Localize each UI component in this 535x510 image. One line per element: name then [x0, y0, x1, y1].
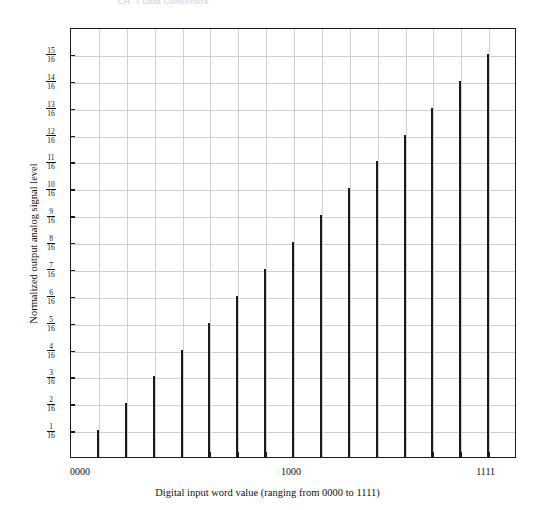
x-tick-mark — [154, 452, 155, 458]
chart-plot-area — [70, 28, 516, 458]
y-tick-mark — [70, 377, 75, 378]
y-tick-mark — [70, 297, 75, 298]
y-tick-mark — [70, 270, 75, 271]
x-tick-mark — [377, 452, 378, 458]
bar — [320, 215, 322, 457]
x-tick-mark — [98, 452, 99, 458]
y-tick-mark — [70, 109, 75, 110]
x-tick-mark — [488, 452, 489, 458]
bar — [264, 269, 266, 457]
x-tick-mark — [237, 452, 238, 458]
bar — [125, 403, 127, 457]
bar — [487, 54, 489, 457]
x-tick-mark — [126, 452, 127, 458]
y-tick-label: 616 — [38, 289, 64, 306]
y-tick-mark — [70, 136, 75, 137]
x-tick-label: 1000 — [281, 466, 301, 477]
bar — [376, 161, 378, 457]
y-tick-label: 316 — [38, 369, 64, 386]
y-tick-mark — [70, 404, 75, 405]
y-tick-label: 516 — [38, 316, 64, 333]
y-tick-mark — [70, 189, 75, 190]
y-tick-mark — [70, 216, 75, 217]
bar — [236, 296, 238, 457]
x-tick-mark — [265, 452, 266, 458]
bar — [153, 376, 155, 457]
chart-bars — [71, 29, 515, 457]
x-axis-title: Digital input word value (ranging from 0… — [0, 487, 535, 498]
x-tick-label: 0000 — [70, 466, 90, 477]
y-tick-mark — [70, 431, 75, 432]
x-tick-mark — [321, 452, 322, 458]
bar — [181, 350, 183, 458]
y-tick-label: 416 — [38, 343, 64, 360]
x-tick-mark — [293, 452, 294, 458]
x-tick-mark — [349, 452, 350, 458]
x-tick-mark — [182, 452, 183, 458]
y-tick-label: 916 — [38, 208, 64, 225]
x-tick-mark — [209, 452, 210, 458]
y-tick-label: 116 — [38, 423, 64, 440]
y-tick-label: 216 — [38, 396, 64, 413]
y-tick-mark — [70, 243, 75, 244]
x-tick-label: 1111 — [476, 466, 495, 477]
x-tick-mark — [460, 452, 461, 458]
bar — [404, 135, 406, 458]
x-tick-mark — [405, 452, 406, 458]
bar — [431, 108, 433, 457]
bar — [348, 188, 350, 457]
y-axis-title: Normalized output analog signal level — [28, 129, 39, 359]
y-tick-mark — [70, 162, 75, 163]
y-tick-mark — [70, 82, 75, 83]
y-tick-mark — [70, 351, 75, 352]
y-tick-label: 1416 — [38, 74, 64, 91]
bar — [459, 81, 461, 457]
y-tick-label: 1016 — [38, 181, 64, 198]
x-tick-mark — [432, 452, 433, 458]
running-header: CH. 7 Data Converters — [118, 0, 418, 6]
bar — [208, 323, 210, 457]
y-tick-mark — [70, 55, 75, 56]
bar — [292, 242, 294, 457]
y-tick-mark — [70, 324, 75, 325]
y-tick-label: 716 — [38, 262, 64, 279]
y-tick-label: 1516 — [38, 47, 64, 64]
y-tick-label: 816 — [38, 235, 64, 252]
y-tick-label: 1316 — [38, 101, 64, 118]
y-tick-label: 1116 — [38, 154, 64, 171]
y-tick-label: 1216 — [38, 128, 64, 145]
